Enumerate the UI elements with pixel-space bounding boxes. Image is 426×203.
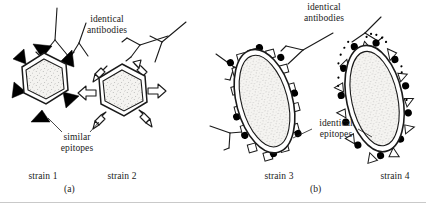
label-identical-epitopes-line2: epitopes [307,129,365,140]
label-identical-antibodies-a-line1: identical [70,14,144,25]
antibody-b4 [210,126,242,150]
panel-b-id: (b) [310,184,321,194]
panel-a-id: (a) [64,184,75,194]
panel-b-group [210,17,425,168]
strain-4-particle [322,27,425,168]
similar-epitopes-leaders [48,118,99,132]
label-identical-antibodies-b-line1: identical [287,2,361,13]
strain-3-particle [216,37,313,166]
label-similar-epitopes: similar epitopes [49,132,105,154]
label-strain-1: strain 1 [15,171,71,182]
antibody-a2 [122,36,168,61]
label-similar-epitopes-line1: similar [49,132,105,143]
label-identical-epitopes: identical epitopes [307,118,365,140]
label-identical-epitopes-line1: identical [307,118,365,129]
label-identical-antibodies-b: identical antibodies [287,2,361,24]
bottom-divider [0,202,426,203]
antibody-a4 [150,22,186,62]
label-strain-2: strain 2 [94,171,150,182]
label-identical-antibodies-a-line2: antibodies [70,25,144,36]
strain-1-particle [12,44,79,122]
strain-2-particle [78,60,166,129]
label-strain-3: strain 3 [251,171,307,182]
label-identical-antibodies-b-line2: antibodies [287,13,361,24]
antibody-b1 [281,33,333,64]
label-identical-antibodies-a: identical antibodies [70,14,144,36]
antigen-antibody-specificity-figure: identical antibodies similar epitopes st… [0,0,426,203]
label-similar-epitopes-line2: epitopes [49,143,105,154]
label-strain-4: strain 4 [367,171,423,182]
